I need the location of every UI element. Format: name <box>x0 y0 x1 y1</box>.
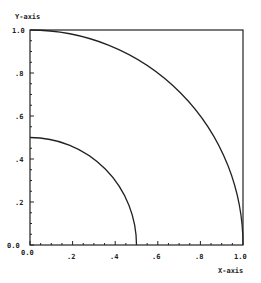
x-tick-label: 1.0 <box>234 253 247 261</box>
x-axis-ticks <box>30 241 232 245</box>
x-tick-label: .2 <box>67 253 75 261</box>
y-tick-label: .2 <box>15 199 23 207</box>
x-tick-label: .6 <box>152 253 160 261</box>
y-tick-label: 1.0 <box>12 27 25 35</box>
x-tick-label: 0.0 <box>21 249 34 257</box>
x-axis-title: X-axis <box>218 267 243 275</box>
chart-plot: 0.0 .2 .4 .6 .8 1.0 0.0 .2 .4 .6 .8 1.0 … <box>0 0 261 283</box>
y-tick-label: .6 <box>15 113 23 121</box>
series-arc-radius-0-5 <box>30 138 137 246</box>
x-tick-label: .8 <box>195 253 203 261</box>
y-tick-label: .8 <box>15 70 23 78</box>
plot-frame <box>30 30 243 245</box>
y-tick-label: 0.0 <box>7 242 20 250</box>
x-tick-label: .4 <box>110 253 118 261</box>
series-arc-radius-1 <box>30 30 243 245</box>
y-axis-title: Y-axis <box>15 13 40 21</box>
y-tick-label: .4 <box>15 156 23 164</box>
